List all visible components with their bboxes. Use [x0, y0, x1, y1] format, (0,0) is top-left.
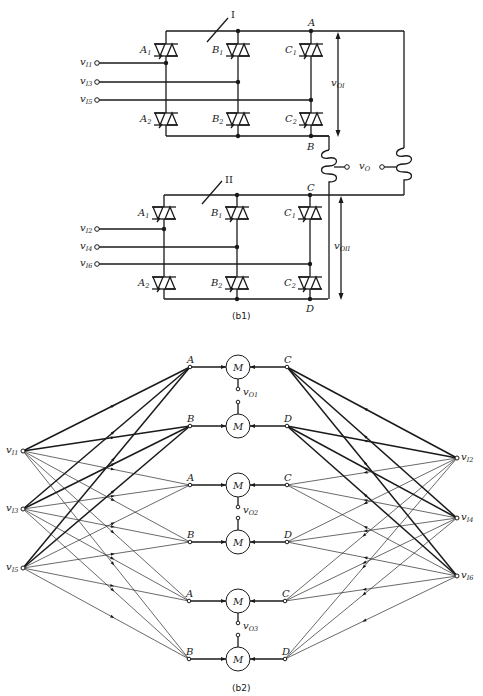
node-B-terminal — [187, 657, 191, 661]
arrowhead-left — [250, 365, 255, 369]
junction-dot — [309, 98, 313, 102]
arrow-mark — [363, 525, 368, 530]
link-vI6-D — [287, 426, 457, 576]
thyristor-I-C2: C2 — [285, 113, 323, 128]
link-vI1-B — [23, 451, 189, 659]
thyristor-II-C2: C2 — [284, 277, 322, 292]
arrow-mark — [362, 619, 367, 623]
arrow-mark — [111, 498, 116, 503]
thyristor-label: B2 — [210, 277, 223, 290]
thyristor-I-A1: A1 — [139, 44, 178, 59]
output-terminal-left — [345, 165, 350, 170]
input-terminal-vI4 — [95, 245, 100, 250]
thyristor-II-A1: A1 — [137, 207, 176, 222]
label-vO: vO — [359, 160, 371, 173]
bridge-II-label: II — [225, 174, 233, 185]
link-vI2-C — [287, 367, 457, 458]
node-D-dot — [308, 297, 312, 301]
thyristor-label: A2 — [137, 277, 149, 290]
link-vI1-A — [23, 451, 190, 485]
thyristor-I-B1: B1 — [211, 44, 250, 59]
label-vO1: vO1 — [243, 386, 258, 399]
junction-dot — [236, 29, 240, 33]
input-terminal-vI2 — [95, 227, 100, 232]
modulator-label: M — [232, 362, 244, 373]
thyristor-label: C1 — [285, 44, 297, 57]
node-C-terminal — [285, 365, 289, 369]
arrowhead-right — [221, 424, 226, 428]
node-label-B: B — [185, 646, 193, 657]
link-vI2-D — [285, 458, 457, 659]
node-label-C: C — [282, 588, 290, 599]
node-D-terminal — [283, 657, 287, 661]
node-label-A: A — [185, 588, 193, 599]
node-A-terminal — [187, 599, 191, 603]
junction-dot — [235, 245, 239, 249]
output-terminal — [236, 387, 240, 391]
label-vOII: vOII — [334, 240, 351, 253]
arrowhead-right — [221, 657, 226, 661]
label-vI2: vI2 — [80, 222, 92, 235]
node-label-B: B — [186, 529, 194, 540]
arrow-mark — [111, 521, 116, 525]
link-vI3-B — [23, 509, 189, 659]
input-terminal-vI5 — [95, 98, 100, 103]
thyristor-I-C1: C1 — [285, 44, 323, 59]
arrowhead-right — [221, 540, 226, 544]
arrow-mark — [110, 556, 115, 561]
output-terminal — [236, 400, 240, 404]
thyristor-II-A2: A2 — [137, 277, 176, 292]
node-label-D: D — [281, 646, 290, 657]
arrowhead-right — [221, 483, 226, 487]
output-terminal-right — [380, 165, 385, 170]
junction-dot — [308, 262, 312, 266]
caption-b2: (b2) — [232, 683, 250, 693]
node-label-A: A — [186, 472, 194, 483]
thyristor-I-B2: B2 — [211, 113, 250, 128]
cycloconverter-diagram: I II A1B1C1A2B2C2A1B1C1A2B2C2 — [0, 0, 483, 696]
label-vO3: vO3 — [243, 620, 258, 633]
junction-dot — [164, 61, 168, 65]
thyristor-label: B1 — [210, 207, 223, 220]
figure-b2-matrix: MACMBDMACMBDMACMBDvO1vO2vO3vI1vI3vI5vI2v… — [6, 354, 473, 693]
node-D-terminal — [285, 540, 289, 544]
modulator-label: M — [232, 537, 244, 548]
input-terminal-vI3 — [21, 507, 25, 511]
modulator-label: M — [232, 654, 244, 665]
thyristor-label: C2 — [285, 113, 297, 126]
output-terminal — [236, 516, 240, 520]
link-vI2-D — [287, 426, 457, 458]
thyristor-label: C1 — [284, 207, 296, 220]
label-vI6: vI6 — [461, 569, 473, 582]
arrowhead-up — [336, 32, 341, 39]
modulator-label: M — [232, 596, 244, 607]
node-label-A: A — [186, 354, 194, 365]
node-label-A: A — [307, 17, 315, 28]
output-terminal — [236, 505, 240, 509]
input-terminal-vI3 — [95, 80, 100, 85]
input-terminal-vI4 — [455, 516, 459, 520]
link-vI1-A — [23, 451, 189, 601]
arrowhead-left — [250, 483, 255, 487]
node-B-terminal — [188, 540, 192, 544]
label-vI4: vI4 — [80, 240, 92, 253]
arrowhead-right — [221, 599, 226, 603]
b1-input-labels: vI1 vI3 vI5 vI2 vI4 vI6 — [80, 56, 92, 270]
thyristor-label: A2 — [139, 113, 151, 126]
thyristor-group: A1B1C1A2B2C2A1B1C1A2B2C2 — [137, 44, 323, 292]
label-vO2: vO2 — [243, 504, 258, 517]
thyristor-label: B1 — [211, 44, 224, 57]
node-label-B: B — [306, 141, 314, 152]
label-vI1: vI1 — [6, 444, 18, 457]
link-vI4-C — [287, 485, 457, 518]
node-C-terminal — [285, 483, 289, 487]
node-label-D: D — [283, 413, 292, 424]
node-label-B: B — [186, 413, 194, 424]
input-terminal-vI1 — [21, 449, 25, 453]
modulator-label: M — [232, 421, 244, 432]
junction-dot — [162, 227, 166, 231]
node-D-terminal — [285, 424, 289, 428]
thyristor-label: C2 — [284, 277, 296, 290]
input-terminal-vI1 — [95, 61, 100, 66]
node-label-C: C — [284, 472, 292, 483]
